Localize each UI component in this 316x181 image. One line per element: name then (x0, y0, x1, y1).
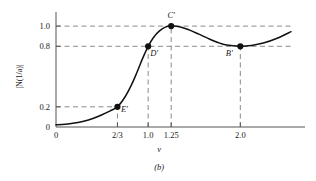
figure-container: 02/31.01.252.0 00.20.81.0 E'D'C'B' v (b)… (0, 0, 316, 181)
y-tick-label-0: 0 (46, 122, 50, 132)
data-point-label-D-prime: D' (149, 48, 158, 58)
axes-group (56, 12, 305, 127)
x-tick-label-0: 0 (54, 130, 58, 140)
data-point-C-prime (168, 23, 174, 29)
guide-lines-group (56, 26, 291, 127)
y-axis-title: |N(1/a)| (15, 64, 24, 88)
plot-svg: 02/31.01.252.0 00.20.81.0 E'D'C'B' v (b)… (0, 0, 316, 181)
x-ticks-group: 02/31.01.252.0 (54, 123, 246, 141)
data-point-E-prime (114, 104, 120, 110)
y-tick-label-0.8: 0.8 (39, 41, 50, 51)
figure-caption: (b) (154, 162, 164, 172)
y-tick-label-0.2: 0.2 (39, 102, 50, 112)
x-tick-label-2/3: 2/3 (112, 130, 123, 140)
x-tick-label-2.0: 2.0 (235, 130, 246, 140)
x-tick-label-1.0: 1.0 (143, 130, 154, 140)
data-point-label-B-prime: B' (226, 48, 233, 58)
data-point-B-prime (237, 43, 243, 49)
data-point-label-E-prime: E' (120, 104, 128, 114)
y-ticks-group: 00.20.81.0 (39, 21, 60, 132)
data-curve (56, 26, 291, 125)
x-axis-title: v (157, 144, 161, 154)
x-tick-label-1.25: 1.25 (164, 130, 179, 140)
data-point-label-C-prime: C' (167, 10, 175, 20)
y-tick-label-1.0: 1.0 (39, 21, 50, 31)
